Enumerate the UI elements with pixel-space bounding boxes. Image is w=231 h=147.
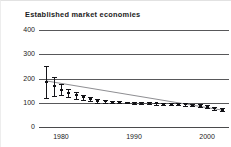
error-bar-cap-high — [59, 84, 64, 85]
error-bar-cap-low — [154, 105, 159, 106]
x-tick-label-1990: 1990 — [119, 133, 149, 140]
data-point — [170, 103, 173, 105]
error-bar-cap-low — [117, 103, 122, 104]
error-bar-cap-low — [81, 100, 86, 101]
error-bar-cap-low — [95, 103, 100, 104]
error-bar-cap-low — [176, 105, 181, 106]
data-point — [75, 94, 78, 96]
x-axis-line — [39, 127, 229, 128]
error-bar-cap-low — [44, 98, 49, 99]
data-point — [162, 103, 165, 105]
error-bar-cap-low — [132, 104, 137, 105]
data-point — [199, 105, 202, 107]
y-tick-label-300: 300 — [9, 50, 35, 57]
error-bar-cap-low — [66, 97, 71, 98]
data-point — [184, 103, 187, 105]
x-tick-label-1980: 1980 — [46, 133, 76, 140]
data-point — [53, 85, 56, 87]
error-bar-cap-low — [59, 95, 64, 96]
error-bar-cap-low — [205, 108, 210, 109]
data-point — [148, 102, 151, 104]
data-point — [191, 104, 194, 106]
error-bar-cap-low — [88, 101, 93, 102]
chart-figure: Established market economies 01002003004… — [0, 0, 231, 147]
error-bar-cap-low — [147, 104, 152, 105]
error-bar-cap-high — [66, 89, 71, 90]
error-bar-cap-high — [74, 92, 79, 93]
chart-title: Established market economies — [25, 10, 140, 19]
y-tick-label-0: 0 — [9, 123, 35, 130]
error-bar-cap-low — [161, 105, 166, 106]
error-bar-cap-low — [125, 103, 130, 104]
data-point — [177, 103, 180, 105]
data-point — [140, 102, 143, 104]
y-tick-label-400: 400 — [9, 26, 35, 33]
error-bar-cap-low — [74, 99, 79, 100]
data-point — [67, 92, 70, 94]
data-point — [126, 102, 129, 104]
error-bar-cap-low — [220, 111, 225, 112]
error-bar-cap-high — [81, 95, 86, 96]
error-bar-cap-high — [44, 66, 49, 67]
error-bar-cap-low — [190, 106, 195, 107]
error-bar-cap-low — [110, 103, 115, 104]
data-point — [104, 100, 107, 102]
data-point — [213, 107, 216, 109]
data-point — [82, 96, 85, 98]
error-bar-cap-low — [183, 106, 188, 107]
data-point — [60, 89, 63, 91]
error-bar-cap-low — [139, 104, 144, 105]
y-tick-label-100: 100 — [9, 99, 35, 106]
trend-line — [39, 30, 229, 127]
error-bar-cap-high — [52, 77, 57, 78]
data-point — [221, 109, 224, 111]
data-point — [133, 102, 136, 104]
data-point — [206, 106, 209, 108]
data-point — [118, 101, 121, 103]
x-tick-label-2000: 2000 — [192, 133, 222, 140]
error-bar-cap-low — [212, 110, 217, 111]
plot-area — [39, 30, 229, 127]
data-point — [155, 102, 158, 104]
error-bar-cap-low — [198, 107, 203, 108]
data-point — [45, 81, 48, 83]
y-tick-label-200: 200 — [9, 75, 35, 82]
data-point — [111, 101, 114, 103]
error-bar-cap-low — [169, 105, 174, 106]
data-point — [96, 100, 99, 102]
data-point — [89, 98, 92, 100]
error-bar-cap-low — [52, 96, 57, 97]
error-bar-cap-low — [103, 103, 108, 104]
